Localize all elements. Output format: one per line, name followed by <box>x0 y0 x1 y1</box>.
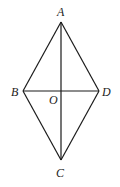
rhombus-diagram: A B C D O <box>0 0 120 187</box>
label-b: B <box>11 85 19 99</box>
segment-cd <box>61 91 99 160</box>
label-d: D <box>101 85 111 99</box>
label-a: A <box>56 5 65 19</box>
label-o: O <box>49 93 58 107</box>
label-c: C <box>56 166 65 180</box>
segment-ab <box>23 22 61 91</box>
segment-da <box>61 22 99 91</box>
rhombus-edges <box>23 22 99 160</box>
